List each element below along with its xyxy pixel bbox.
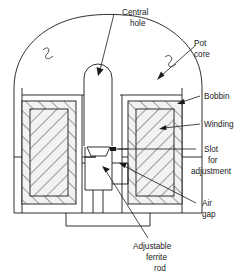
label-bobbin: Bobbin — [204, 92, 230, 101]
label-air-gap-line1: Air — [202, 199, 212, 208]
label-rod-line1: Adjustable — [133, 242, 172, 251]
label-pot-core-line1: Pot — [194, 39, 207, 48]
adjustment-slot — [87, 147, 110, 156]
adjustable-ferrite-rod — [82, 147, 128, 213]
label-slot-for-adjustment: Slot for adjustment — [191, 145, 232, 176]
figure-canvas: Central hole Pot core Bobbin Winding Slo… — [0, 0, 248, 274]
winding-right — [128, 101, 182, 204]
label-pot-core: Pot core — [194, 39, 210, 59]
winding-left — [22, 101, 76, 204]
label-rod-line3: rod — [154, 264, 166, 273]
label-winding-line1: Winding — [204, 120, 234, 129]
label-central-hole-line2: hole — [130, 19, 146, 28]
label-slot-line3: adjustment — [191, 167, 232, 176]
label-pot-core-line2: core — [194, 50, 210, 59]
label-adjustable-ferrite-rod: Adjustable ferrite rod — [133, 242, 172, 273]
label-bobbin-line1: Bobbin — [204, 92, 230, 101]
label-air-gap: Air gap — [202, 199, 216, 219]
central-hole — [84, 64, 112, 146]
label-rod-line2: ferrite — [146, 253, 167, 262]
label-air-gap-line2: gap — [202, 210, 216, 219]
label-winding: Winding — [204, 120, 234, 129]
label-central-hole-line1: Central — [122, 8, 149, 17]
label-slot-line1: Slot — [204, 145, 219, 154]
label-slot-line2: for — [208, 156, 218, 165]
